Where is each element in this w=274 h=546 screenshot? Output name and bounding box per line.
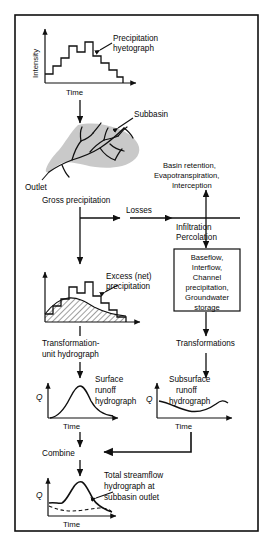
hyetograph-annotation-line1: Precipitation <box>113 34 159 43</box>
subbasin-label: Subbasin <box>134 110 169 119</box>
total-x-axis-label: Time <box>63 520 80 529</box>
subsurface-x-axis-label: Time <box>175 422 192 431</box>
hydrology-flowchart: Intensity Time Precipitation hyetograph <box>0 0 274 546</box>
storage-box: Baseflow, Interflow, Channel precipitati… <box>174 249 240 312</box>
storage-box-line6: storage <box>194 303 219 312</box>
basin-retention-line2: Evapotranspiration, <box>154 171 219 180</box>
losses-label: Losses <box>126 206 152 215</box>
excess-annotation-line2: precipitation <box>106 282 151 291</box>
storage-box-line1: Baseflow, <box>191 253 224 262</box>
excess-annotation-line1: Excess (net) <box>106 272 152 281</box>
subsurface-title-line2: runoff <box>176 386 198 395</box>
total-title-line2: hydrograph at <box>104 482 155 491</box>
subsurface-title-line3: hydrograph <box>169 397 211 406</box>
hyetograph-y-axis-label: Intensity <box>31 49 40 78</box>
storage-box-line3: Channel <box>193 273 222 282</box>
total-title-line3: subbasin outlet <box>104 493 160 502</box>
transformation-left-line1: Transformation- <box>42 339 100 348</box>
surface-title-line3: hydrograph <box>95 397 137 406</box>
storage-box-line4: precipitation, <box>185 283 228 292</box>
figure-panel: Intensity Time Precipitation hyetograph <box>0 0 274 546</box>
surface-x-axis-label: Time <box>63 422 80 431</box>
total-title-line1: Total streamflow <box>104 471 163 480</box>
transformation-right-line1: Transformations <box>176 339 235 348</box>
transformation-left-line2: unit hydrograph <box>42 350 99 359</box>
surface-y-axis-label: Q <box>36 392 43 402</box>
basin-retention-line3: Interception <box>172 181 212 190</box>
hyetograph-annotation-line2: hyetograph <box>113 44 154 53</box>
hyetograph-x-axis-label: Time <box>66 88 83 97</box>
percolation-label: Percolation <box>176 233 217 242</box>
storage-box-line2: Interflow, <box>192 263 222 272</box>
basin-retention-line1: Basin retention, <box>163 161 216 170</box>
surface-title-line2: runoff <box>95 386 117 395</box>
subsurface-title-line1: Subsurface <box>169 375 211 384</box>
total-y-axis-label: Q <box>36 490 43 500</box>
combine-label: Combine <box>42 449 75 458</box>
surface-title-line1: Surface <box>95 375 124 384</box>
subsurface-y-axis-label: Q <box>146 394 153 404</box>
gross-precipitation-label: Gross precipitation <box>42 196 111 205</box>
storage-box-line5: Groundwater <box>185 293 229 302</box>
outlet-label: Outlet <box>25 183 48 192</box>
